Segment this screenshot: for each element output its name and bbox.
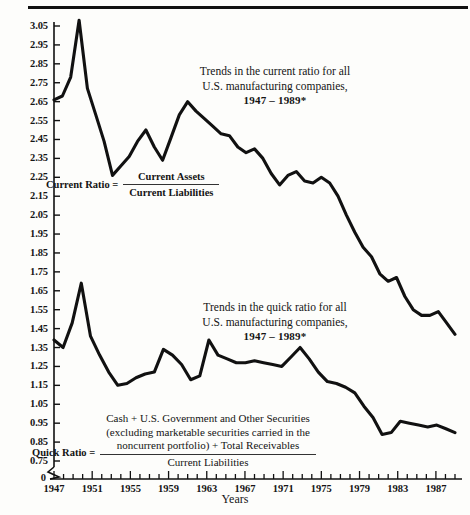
y-axis-tick-label: 3.05 (2, 20, 48, 31)
y-axis-tick-label: 2.15 (2, 190, 48, 201)
y-axis-tick-label: 1.35 (2, 342, 48, 353)
quick-ratio-numerator: Cash + U.S. Government and Other Securit… (100, 412, 316, 454)
quick-ratio-denominator: Current Liabilities (162, 455, 255, 470)
y-axis-tick-label: 1.25 (2, 360, 48, 371)
quick-ratio-formula: Quick Ratio = Cash + U.S. Government and… (32, 412, 316, 469)
y-axis-tick-label: 1.45 (2, 323, 48, 334)
figure-container: 3.052.952.852.752.652.552.452.352.252.15… (0, 0, 470, 515)
current-ratio-denominator: Current Liabilities (123, 185, 219, 199)
current-ratio-caption-years: 1947 – 1989* (170, 93, 380, 108)
current-ratio-numerator: Current Assets (132, 170, 211, 184)
y-axis-tick-label: 2.45 (2, 133, 48, 144)
x-axis-title: Years (0, 492, 470, 507)
y-axis-zero-label: 0 (2, 472, 46, 483)
y-axis-tick-label: 2.85 (2, 58, 48, 69)
current-ratio-caption-line2: U.S. manufacturing companies, (170, 79, 380, 94)
current-ratio-caption: Trends in the current ratio for all U.S.… (170, 64, 380, 108)
y-axis-tick-label: 2.95 (2, 39, 48, 50)
current-ratio-caption-line1: Trends in the current ratio for all (170, 64, 380, 79)
quick-ratio-caption: Trends in the quick ratio for all U.S. m… (170, 300, 380, 344)
quick-ratio-numerator-line1: Cash + U.S. Government and Other Securit… (106, 412, 310, 426)
quick-ratio-formula-label: Quick Ratio = (32, 423, 95, 458)
y-axis-tick-label: 1.85 (2, 247, 48, 258)
y-axis-tick-label: 1.15 (2, 379, 48, 390)
y-axis-tick-label: 1.65 (2, 285, 48, 296)
y-axis-tick-label: 1.05 (2, 398, 48, 409)
quick-ratio-numerator-line2: (excluding marketable securities carried… (106, 426, 310, 440)
current-ratio-formula: Current Ratio = Current Assets Current L… (46, 170, 219, 199)
y-axis-tick-label: 1.75 (2, 266, 48, 277)
y-axis-tick-label: 1.55 (2, 304, 48, 315)
quick-ratio-caption-line2: U.S. manufacturing companies, (170, 315, 380, 330)
current-ratio-fraction: Current Assets Current Liabilities (123, 170, 219, 199)
y-axis-tick-label: 2.75 (2, 77, 48, 88)
y-axis-tick-label: 2.65 (2, 96, 48, 107)
quick-ratio-caption-line1: Trends in the quick ratio for all (170, 300, 380, 315)
y-axis-tick-label: 1.95 (2, 228, 48, 239)
quick-ratio-fraction: Cash + U.S. Government and Other Securit… (100, 412, 316, 469)
y-axis-tick-label: 2.55 (2, 115, 48, 126)
quick-ratio-caption-years: 1947 – 1989* (170, 329, 380, 344)
y-axis-tick-label: 2.25 (2, 171, 48, 182)
quick-ratio-numerator-line3: noncurrent portfolio) + Total Receivable… (106, 439, 310, 453)
current-ratio-formula-label: Current Ratio = (46, 179, 118, 190)
y-axis-tick-label: 2.05 (2, 209, 48, 220)
y-axis-tick-label: 2.35 (2, 152, 48, 163)
